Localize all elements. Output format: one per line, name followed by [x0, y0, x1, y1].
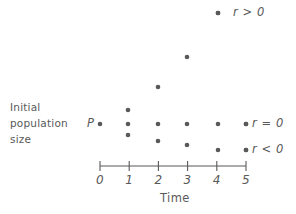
- data-point: [216, 122, 221, 127]
- data-point: [185, 143, 190, 148]
- legend-dot-r-equals-zero: [244, 122, 249, 127]
- x-axis: [100, 161, 246, 171]
- y-axis-description-line-2: population: [10, 118, 68, 129]
- x-tick-label-5: 5: [242, 174, 250, 186]
- x-axis-title: Time: [160, 193, 190, 205]
- initial-population-marker-label: P: [87, 118, 94, 130]
- data-point: [185, 122, 190, 127]
- x-tick-label-2: 2: [154, 174, 162, 186]
- legend-dot-r-less-than-zero: [244, 148, 249, 153]
- data-point: [126, 122, 131, 127]
- label-r-equals-zero: r = 0: [252, 118, 284, 130]
- x-tick-label-4: 4: [213, 174, 221, 186]
- x-tick-label-3: 3: [184, 174, 192, 186]
- data-point: [126, 133, 131, 138]
- x-tick-label-1: 1: [125, 174, 133, 186]
- data-points-group: [98, 11, 249, 153]
- data-point: [156, 122, 161, 127]
- label-r-less-than-zero: r < 0: [252, 144, 284, 156]
- y-axis-description-line-1: Initial: [10, 102, 40, 113]
- plot-canvas: [0, 0, 296, 214]
- data-point: [185, 55, 190, 60]
- data-point: [98, 122, 103, 127]
- label-r-greater-than-zero: r > 0: [233, 7, 265, 19]
- data-point: [156, 85, 161, 90]
- x-tick-label-0: 0: [96, 174, 104, 186]
- legend-marker-dots: [216, 11, 249, 153]
- data-point: [156, 139, 161, 144]
- y-axis-description-line-3: size: [10, 134, 31, 145]
- data-point: [126, 108, 131, 113]
- population-growth-scatter-figure: Initial population size P r > 0 r = 0 r …: [0, 0, 296, 214]
- legend-dot-r-greater-than-zero: [216, 11, 221, 16]
- data-point: [216, 148, 221, 153]
